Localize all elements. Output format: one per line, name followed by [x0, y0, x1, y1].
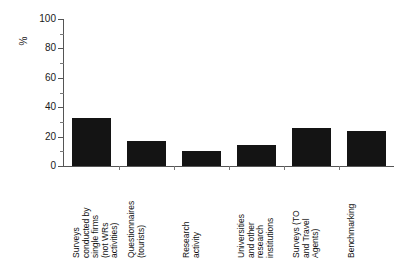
y-tick-label-wrap: 100	[0, 14, 56, 24]
x-axis-label: Surveys (TOand TravelAgents)	[292, 172, 321, 258]
x-tick	[284, 166, 285, 170]
bar	[292, 128, 331, 166]
y-tick-label: 40	[0, 102, 56, 112]
x-axis-label-line: activity	[192, 172, 202, 258]
x-tick	[119, 166, 120, 170]
y-tick-label-wrap: 80	[0, 43, 56, 53]
y-tick-label: 60	[0, 73, 56, 83]
x-tick	[339, 166, 340, 170]
x-axis-label-line: institutions	[266, 172, 276, 258]
bar	[127, 141, 166, 166]
y-tick-label: 80	[0, 43, 56, 53]
x-axis-label-line: Benchmarking	[347, 172, 357, 258]
bar	[237, 145, 276, 166]
x-tick	[229, 166, 230, 170]
y-tick-label-wrap: 40	[0, 102, 56, 112]
y-tick-label: 100	[0, 14, 56, 24]
x-axis-label: Researchactivity	[182, 172, 201, 258]
bar	[347, 131, 386, 166]
bar	[72, 118, 111, 167]
x-axis-label-line: (tourists)	[137, 172, 147, 258]
x-axis-label: Surveysconducted bysingle firms(not WRsa…	[72, 172, 120, 258]
y-tick-label: 20	[0, 132, 56, 142]
x-axis-label-line: Agents)	[311, 172, 321, 258]
plot-area	[64, 19, 394, 166]
y-tick-label: 0	[0, 161, 56, 171]
y-tick-label-wrap: 0	[0, 161, 56, 171]
x-axis-label-line: activities)	[110, 172, 120, 258]
bar-chart: % 020406080100 Surveysconducted bysingle…	[0, 0, 399, 260]
x-tick	[174, 166, 175, 170]
x-axis-label: Questionnaires(tourists)	[127, 172, 146, 258]
bar	[182, 151, 221, 166]
y-tick-label-wrap: 20	[0, 132, 56, 142]
y-tick-label-wrap: 60	[0, 73, 56, 83]
x-axis-label: Universitiesand otherresearchinstitution…	[237, 172, 275, 258]
x-axis-label: Benchmarking	[347, 172, 357, 258]
